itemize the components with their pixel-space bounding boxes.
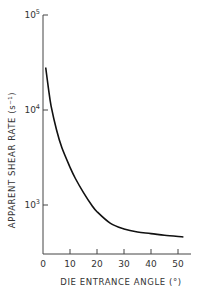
x-tick-label: 10 bbox=[64, 259, 76, 269]
x-tick-label: 20 bbox=[91, 259, 103, 269]
x-ticks: 01020304050 bbox=[40, 249, 184, 269]
y-axis-label: APPARENT SHEAR RATE (s⁻¹) bbox=[7, 92, 17, 228]
shear-rate-chart: 103104105 01020304050 APPARENT SHEAR RAT… bbox=[0, 0, 200, 294]
y-tick-label: 104 bbox=[24, 103, 40, 115]
axes bbox=[43, 15, 191, 254]
y-ticks: 103104105 bbox=[24, 8, 48, 210]
data-curve bbox=[46, 68, 184, 238]
y-tick-label: 103 bbox=[24, 198, 40, 210]
x-tick-label: 30 bbox=[118, 259, 130, 269]
x-tick-label: 40 bbox=[145, 259, 157, 269]
x-tick-label: 0 bbox=[40, 259, 46, 269]
x-tick-label: 50 bbox=[172, 259, 184, 269]
y-tick-label: 105 bbox=[24, 8, 40, 20]
x-axis-label: DIE ENTRANCE ANGLE (°) bbox=[60, 277, 181, 287]
